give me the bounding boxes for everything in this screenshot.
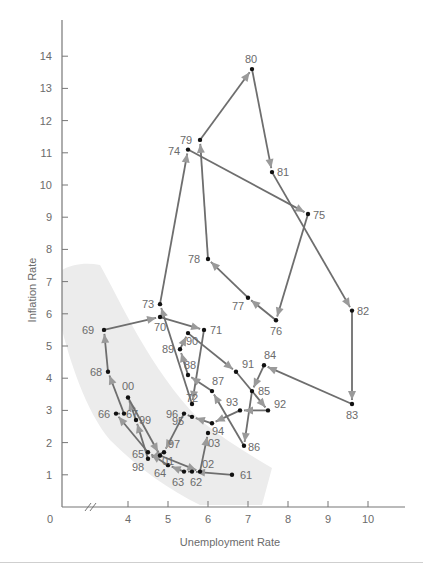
point-label-75: 75	[313, 209, 325, 221]
y-axis-title: Inflation Rate	[26, 258, 38, 323]
origin-label: 0	[47, 513, 53, 525]
point-label-83: 83	[346, 409, 358, 421]
point-label-94: 94	[212, 425, 224, 437]
data-point-95	[190, 415, 194, 419]
point-label-87: 87	[212, 375, 224, 387]
point-label-03: 03	[208, 437, 220, 449]
point-label-68: 68	[90, 366, 102, 378]
point-label-00: 00	[122, 380, 134, 392]
data-point-77	[246, 296, 250, 300]
trajectory-segment	[160, 154, 187, 305]
data-point-75	[306, 212, 310, 216]
data-point-61	[230, 473, 234, 477]
arrow-head-icon	[276, 307, 284, 317]
x-tick-label: 6	[205, 513, 211, 525]
data-point-91	[234, 370, 238, 374]
point-label-86: 86	[248, 441, 260, 453]
x-tick-label: 8	[285, 513, 291, 525]
data-point-76	[274, 318, 278, 322]
y-tick-label: 6	[46, 308, 52, 320]
data-point-79	[198, 138, 202, 142]
y-tick-label: 1	[46, 469, 52, 481]
point-label-96: 96	[166, 408, 178, 420]
x-tick-label: 5	[165, 513, 171, 525]
data-point-70	[158, 315, 162, 319]
trajectory-segment	[188, 150, 304, 213]
point-label-79: 79	[180, 134, 192, 146]
point-label-97: 97	[168, 438, 180, 450]
y-tick-label: 12	[40, 115, 52, 127]
data-point-71	[202, 328, 206, 332]
trajectory-segment	[252, 69, 271, 168]
bottom-divider	[0, 562, 423, 563]
x-tick-label: 9	[325, 513, 331, 525]
point-label-99: 99	[139, 414, 151, 426]
arrow-head-icon	[191, 377, 201, 385]
point-label-02: 02	[202, 458, 214, 470]
point-label-82: 82	[357, 305, 369, 317]
data-point-88	[186, 373, 190, 377]
arrow-head-icon	[182, 154, 190, 164]
data-point-99	[134, 418, 138, 422]
y-tick-label: 11	[41, 147, 52, 159]
y-tick-label: 3	[46, 404, 52, 416]
point-label-74: 74	[168, 145, 180, 157]
arrow-head-icon	[190, 322, 200, 330]
x-tick-label: 4	[125, 513, 131, 525]
data-point-00	[126, 395, 130, 399]
data-point-63	[182, 469, 186, 473]
phillips-curve-chart: 123456789101112131445678910 616263646566…	[0, 0, 423, 577]
point-label-76: 76	[270, 325, 282, 337]
data-point-97	[162, 450, 166, 454]
x-tick-label: 7	[245, 513, 251, 525]
trajectory-segment	[200, 72, 250, 140]
data-point-87	[210, 389, 214, 393]
data-point-69	[102, 328, 106, 332]
point-label-61: 61	[240, 469, 252, 481]
point-label-77: 77	[232, 300, 244, 312]
trajectory-segment	[200, 144, 208, 259]
data-point-65	[146, 450, 150, 454]
data-point-85	[250, 389, 254, 393]
point-label-70: 70	[154, 321, 166, 333]
data-point-96	[182, 411, 186, 415]
data-point-62	[190, 469, 194, 473]
point-label-63: 63	[172, 476, 184, 488]
data-point-73	[158, 302, 162, 306]
trajectory-segment	[272, 172, 350, 307]
point-label-62: 62	[190, 476, 202, 488]
point-label-78: 78	[188, 253, 200, 265]
point-label-91: 91	[242, 358, 254, 370]
point-label-81: 81	[277, 166, 289, 178]
data-point-93	[238, 408, 242, 412]
point-label-69: 69	[82, 324, 94, 336]
x-tick-label: 10	[362, 513, 374, 525]
y-tick-label: 5	[46, 340, 52, 352]
data-point-98	[146, 457, 150, 461]
data-point-78	[206, 257, 210, 261]
point-label-85: 85	[258, 385, 270, 397]
data-point-02	[198, 469, 202, 473]
data-point-92	[266, 408, 270, 412]
data-point-89	[178, 347, 182, 351]
y-tick-label: 10	[40, 179, 52, 191]
data-point-83	[350, 402, 354, 406]
y-tick-label: 7	[46, 276, 52, 288]
point-label-80: 80	[245, 53, 257, 65]
point-label-90: 90	[186, 335, 198, 347]
data-point-68	[106, 370, 110, 374]
point-label-66: 66	[98, 408, 110, 420]
point-label-98: 98	[132, 461, 144, 473]
data-point-81	[270, 170, 274, 174]
trajectory-segment	[277, 214, 308, 316]
arrow-head-icon	[197, 144, 205, 153]
data-point-80	[250, 67, 254, 71]
data-point-74	[186, 147, 190, 151]
point-label-93: 93	[226, 396, 238, 408]
y-tick-label: 13	[40, 82, 52, 94]
point-label-64: 64	[154, 467, 166, 479]
point-label-67: 67	[126, 408, 138, 420]
y-tick-label: 14	[40, 50, 52, 62]
point-label-71: 71	[210, 324, 222, 336]
point-label-89: 89	[162, 343, 174, 355]
